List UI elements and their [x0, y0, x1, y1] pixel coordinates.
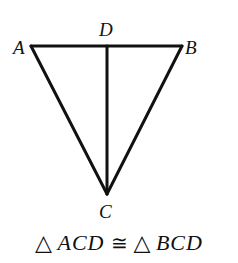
congruent-symbol-icon: ≅: [111, 232, 128, 254]
vertex-label-d: D: [99, 20, 113, 39]
triangle-acd-name: ACD: [58, 230, 105, 255]
congruence-statement: △ ACD≅△ BCD: [0, 232, 238, 254]
triangle-symbol-icon: △: [134, 230, 151, 255]
segment-ac: [31, 46, 107, 194]
vertex-label-b: B: [185, 38, 197, 57]
vertex-label-a: A: [13, 38, 25, 57]
triangle-bcd-name: BCD: [156, 230, 203, 255]
triangle-figure: [0, 0, 238, 263]
segment-bc: [107, 46, 182, 194]
vertex-label-c: C: [99, 202, 112, 221]
triangle-diagram: A B D C △ ACD≅△ BCD: [0, 0, 238, 263]
triangle-symbol-icon: △: [35, 230, 52, 255]
